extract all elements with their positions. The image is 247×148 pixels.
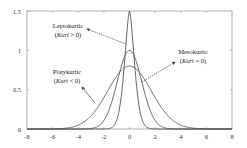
leptokurtic-label: Leptokurtic — [53, 22, 83, 29]
platykurtic-condition: (Kurt < 0) — [54, 77, 80, 85]
x-tick-label: -8 — [24, 133, 29, 140]
platykurtic-arrow — [82, 87, 95, 103]
x-tick-label: 4 — [179, 133, 183, 140]
leptokurtic-annotation: Leptokurtic (Kurt > 0) — [53, 22, 83, 39]
x-tick-label: -6 — [50, 133, 56, 140]
x-tick-label: -4 — [76, 133, 82, 140]
x-tick-label: 8 — [230, 133, 233, 140]
mesokurtic-condition: (Kurt = 0) — [180, 57, 206, 65]
x-tick-label: 6 — [205, 133, 209, 140]
platykurtic-label: Platykurtic — [53, 68, 82, 75]
platykurtic-curve — [27, 66, 232, 129]
mesokurtic-annotation: Mesokurtic (Kurt = 0) — [178, 48, 208, 65]
x-tick-label: 2 — [153, 133, 156, 140]
mesokurtic-arrow — [142, 62, 175, 82]
y-tick-label: 0 — [18, 126, 21, 133]
y-tick-label: 1.5 — [13, 8, 21, 15]
kurtosis-chart: 0 0.5 1 1.5 -8 -6 -4 -2 0 2 4 6 8 — [0, 0, 247, 148]
y-tick-label: 0.5 — [13, 86, 21, 93]
mesokurtic-label: Mesokurtic — [178, 48, 208, 55]
x-tick-label: 0 — [128, 133, 131, 140]
leptokurtic-condition: (Kurt > 0) — [55, 31, 81, 39]
y-tick-label: 1 — [18, 47, 21, 54]
platykurtic-annotation: Platykurtic (Kurt < 0) — [53, 68, 82, 85]
x-tick-label: -2 — [101, 133, 106, 140]
leptokurtic-arrow — [87, 29, 126, 44]
